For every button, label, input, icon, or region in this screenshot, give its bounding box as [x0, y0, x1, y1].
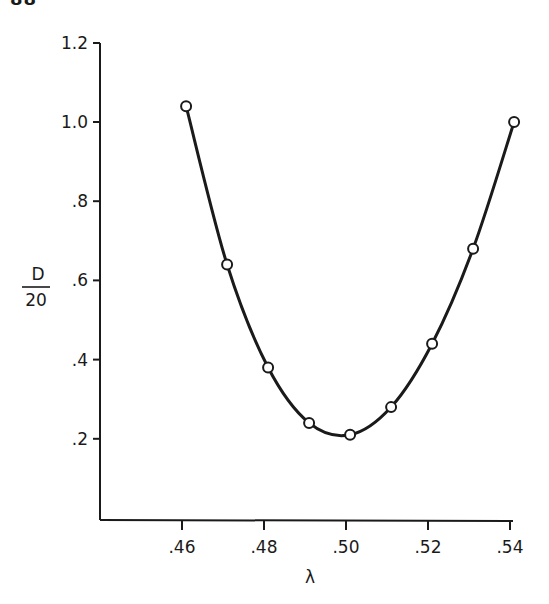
y-ticks: .2.4.6.81.01.2	[61, 33, 100, 449]
x-tick-label: .50	[332, 537, 359, 557]
data-point-marker	[304, 418, 314, 428]
y-axis-title-denominator: 20	[25, 290, 47, 310]
y-tick-label: 1.0	[61, 112, 88, 132]
y-tick-label: .6	[72, 270, 88, 290]
x-tick-label: .52	[414, 537, 441, 557]
data-point-marker	[509, 117, 519, 127]
data-point-marker	[386, 402, 396, 412]
x-tick-label: .48	[250, 537, 277, 557]
axes	[93, 43, 513, 521]
y-tick-label: .4	[72, 350, 88, 370]
data-point-marker	[222, 260, 232, 270]
data-point-marker	[181, 101, 191, 111]
data-point-marker	[345, 430, 355, 440]
y-tick-label: .8	[72, 191, 88, 211]
x-tick-label: .46	[168, 537, 195, 557]
data-point-marker	[468, 244, 478, 254]
data-markers	[181, 101, 519, 440]
y-tick-label: 1.2	[61, 33, 88, 53]
data-curve	[186, 106, 514, 436]
data-point-marker	[427, 339, 437, 349]
x-axis-line	[100, 520, 513, 521]
y-axis-title: D 20	[22, 264, 50, 310]
x-tick-label: .54	[496, 537, 523, 557]
x-ticks: .46.48.50.52.54	[168, 520, 523, 557]
x-axis-title: λ	[305, 567, 315, 587]
y-axis-title-numerator: D	[31, 264, 44, 284]
y-tick-label: .2	[72, 429, 88, 449]
chart: .2.4.6.81.01.2 .46.48.50.52.54 D 20 λ	[0, 0, 549, 604]
data-point-marker	[263, 363, 273, 373]
